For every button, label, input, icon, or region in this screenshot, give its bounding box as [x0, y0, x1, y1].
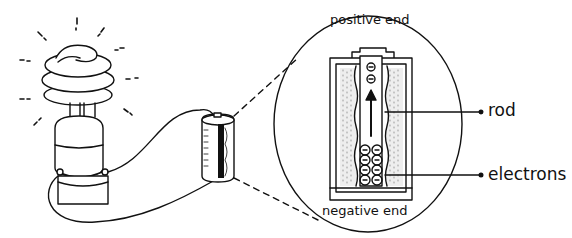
label-positive-end: positive end	[330, 12, 410, 27]
battery-icon	[202, 113, 234, 182]
diagram-canvas	[0, 0, 572, 238]
zoom-lines	[234, 58, 318, 220]
bulb-spiral-icon	[42, 45, 114, 105]
battery-cross-section	[330, 48, 412, 200]
bulb-base	[55, 116, 108, 204]
label-rod: rod	[488, 100, 516, 120]
label-negative-end: negative end	[322, 203, 407, 218]
label-electrons: electrons	[488, 164, 566, 184]
